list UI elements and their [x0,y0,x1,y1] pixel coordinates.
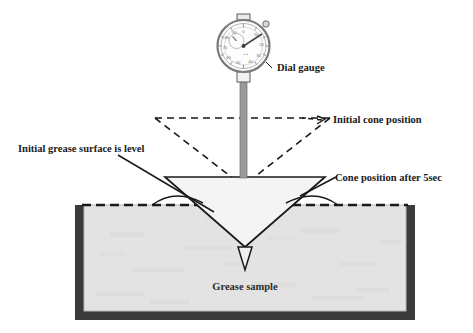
gauge-lower-marker: ++ [244,51,249,56]
cone-penetration-diagram: 0 10 20 30 40 50 60 70 80 90 ++ [0,0,473,333]
gauge-shaft [240,80,247,178]
gauge-side-knob[interactable] [263,21,269,27]
dial-number: 20 [259,42,264,47]
label-initial-grease-surface: Initial grease surface is level [18,143,144,154]
diagram-canvas: 0 10 20 30 40 50 60 70 80 90 ++ [0,0,473,333]
dial-number: 30 [256,53,261,58]
gauge-needle-hub [242,44,246,48]
label-initial-cone-position: Initial cone position [333,114,422,125]
dial-number: 70 [223,45,228,50]
dial-gauge[interactable]: 0 10 20 30 40 50 60 70 80 90 ++ [218,14,270,82]
dial-number: 60 [226,55,231,60]
label-grease-sample: Grease sample [212,281,278,292]
leader-dial-gauge [266,62,272,68]
label-cone-position-after: Cone position after 5sec [335,172,442,183]
dial-number: 40 [248,59,253,64]
label-dial-gauge: Dial gauge [277,62,325,73]
dial-number: 50 [236,60,241,65]
